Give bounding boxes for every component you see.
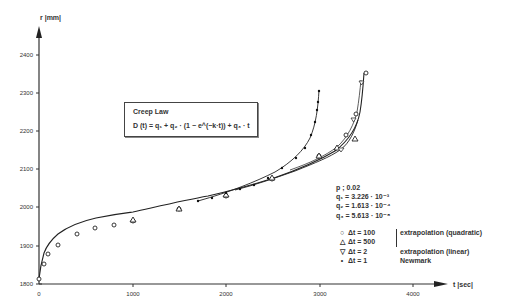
triangle-down-marker-icon: ▽ <box>336 247 348 256</box>
circle-marker-icon: ○ <box>336 228 348 237</box>
y-tick-label: 1800 <box>20 281 34 287</box>
creep-law-title: Creep Law <box>133 108 168 115</box>
dot-marker-icon: • <box>336 256 348 265</box>
x-tick-label: 1000 <box>126 291 140 297</box>
legend-dt: Δt = 100 <box>348 228 396 237</box>
x-tick-label: 3000 <box>313 291 327 297</box>
param-q3: q₃ = 5.613 · 10⁻⁸ <box>336 211 390 220</box>
legend-desc: extrapolation (linear) <box>400 247 469 256</box>
y-tick-label: 2400 <box>20 52 34 58</box>
y-tick-label: 1900 <box>20 243 34 249</box>
creep-law-formula: D (t) = q₁ + q₂ · (1 − e^(−k·t)) + q₃ · … <box>133 122 250 129</box>
y-tick-label: 2000 <box>20 204 34 210</box>
y-tick-label: 2100 <box>20 166 34 172</box>
legend-item: △ Δt = 500 <box>336 237 482 246</box>
y-axis-arrow-icon <box>36 26 42 38</box>
markers-dt500 <box>130 136 358 222</box>
x-tick-label: 4000 <box>406 291 420 297</box>
param-q1: q₁ = 3.226 · 10⁻³ <box>336 192 390 201</box>
legend: ○ Δt = 100 extrapolation (quadratic) △ Δ… <box>336 228 482 266</box>
x-ticks: 0 1000 2000 3000 4000 <box>37 284 420 297</box>
legend-desc: Newmark <box>400 256 431 265</box>
y-tick-label: 2300 <box>20 90 34 96</box>
legend-item: • Δt = 1 Newmark <box>336 256 482 265</box>
parameters-block: p ; 0.02 q₁ = 3.226 · 10⁻³ q₂ = 1.613 · … <box>336 183 390 220</box>
legend-dt: Δt = 500 <box>348 237 396 246</box>
triangle-up-marker-icon: △ <box>336 237 348 246</box>
legend-item: ○ Δt = 100 extrapolation (quadratic) <box>336 228 482 237</box>
legend-item: ▽ Δt = 2 extrapolation (linear) <box>336 247 482 256</box>
y-axis-label: r |mm| <box>40 14 61 22</box>
x-axis-arrow-icon <box>434 281 448 287</box>
creep-law-box: Creep Law D (t) = q₁ + q₂ · (1 − e^(−k·t… <box>124 102 258 137</box>
x-axis-label: t |sec| <box>453 281 473 289</box>
param-p: p ; 0.02 <box>336 183 390 192</box>
x-tick-label: 0 <box>37 291 41 297</box>
legend-dt: Δt = 1 <box>348 256 396 265</box>
param-q2: q₂ = 1.613 · 10⁻⁴ <box>336 201 390 210</box>
y-tick-label: 2200 <box>20 128 34 134</box>
legend-bracket <box>396 229 397 247</box>
legend-desc: extrapolation (quadratic) <box>400 228 482 237</box>
legend-dt: Δt = 2 <box>348 247 396 256</box>
x-tick-label: 2000 <box>219 291 233 297</box>
